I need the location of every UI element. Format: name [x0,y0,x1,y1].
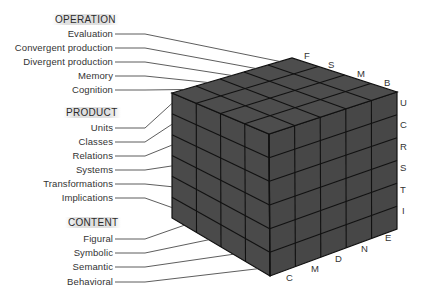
leader-line-content [115,269,258,282]
leader-line-product [115,124,172,142]
axis-letter-t: T [400,184,406,195]
leader-line-content [115,254,233,267]
structure-of-intellect-diagram: OPERATION Evaluation Convergent producti… [0,0,428,305]
content-label-symbolic: Symbolic [74,247,113,258]
axis-letter-f: F [304,50,310,61]
axis-letter-e: E [385,232,391,243]
axis-letter-n: N [361,243,368,254]
operation-label-memory: Memory [78,70,113,81]
leader-line-product [115,145,172,156]
axis-letter-s-top: S [328,59,334,70]
product-label-relations: Relations [72,150,113,161]
operation-label-divergent-production: Divergent production [23,56,113,67]
content-label-semantic: Semantic [73,261,113,272]
product-header: PRODUCT [63,107,121,118]
leader-line-product [115,184,172,187]
axis-letter-s-right: S [400,162,406,173]
content-label-figural: Figural [83,233,113,244]
axis-letter-b: B [384,77,390,88]
content-label-behavioral: Behavioral [67,276,113,287]
leader-line-content [115,225,184,239]
operation-label-convergent-production: Convergent production [15,42,113,53]
product-label-systems: Systems [76,164,113,175]
leader-line-operation [115,90,184,91]
leader-line-operation [115,48,256,69]
leader-line-product [115,166,172,170]
leader-line-product [115,198,172,208]
product-label-transformations: Transformations [43,178,113,189]
product-label-classes: Classes [79,136,114,147]
axis-letter-i: I [402,205,405,216]
axis-letter-m-top: M [357,68,365,79]
axis-letter-d: D [335,253,342,264]
operation-label-evaluation: Evaluation [68,28,113,39]
leader-line-operation [115,62,232,76]
leader-line-content [115,240,209,253]
axis-letter-c-right: C [400,119,407,130]
leader-line-operation [115,76,208,83]
axis-letter-m-bottom: M [311,263,319,274]
axis-letter-r: R [400,141,407,152]
content-header: CONTENT [65,217,121,228]
product-label-implications: Implications [62,192,113,203]
product-label-units: Units [91,122,113,133]
axis-letter-c-bottom: C [286,272,293,283]
operation-header: OPERATION [52,14,119,25]
operation-label-cognition: Cognition [72,84,113,95]
leader-line-product [115,103,172,128]
axis-letter-u: U [400,97,407,108]
